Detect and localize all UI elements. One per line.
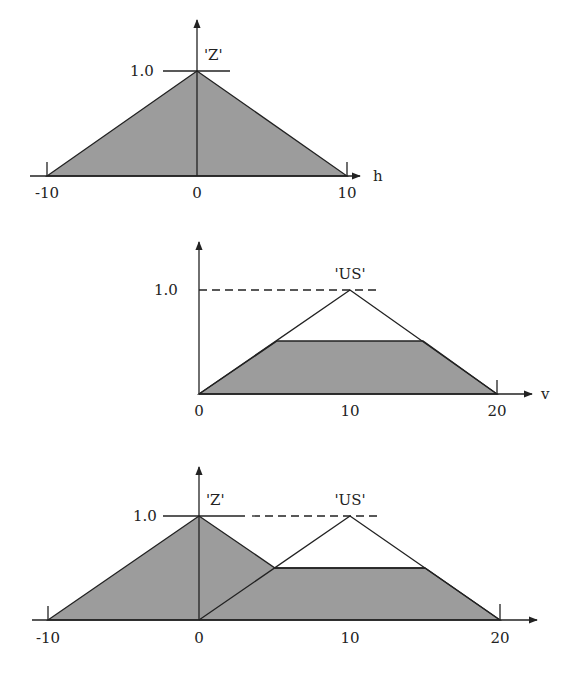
x-tick-label: -10 <box>35 184 59 202</box>
x-tick-label: 0 <box>194 629 204 647</box>
x-tick-label: 0 <box>192 184 202 202</box>
y-tick-label: 1.0 <box>130 62 154 80</box>
y-tick-label: 1.0 <box>154 281 178 299</box>
diagram-us: 'US' 1.0 v 0 10 20 <box>154 242 550 420</box>
set-label-us: 'US' <box>334 265 365 283</box>
set-label-z: 'Z' <box>204 46 223 64</box>
set-label-z: 'Z' <box>206 491 225 509</box>
x-tick-label: -10 <box>36 629 60 647</box>
x-tick-label: 10 <box>340 629 359 647</box>
set-label-us: 'US' <box>334 491 365 509</box>
diagram-combined: 'Z' 'US' 1.0 -10 0 10 20 <box>32 467 537 647</box>
us-clipped-area <box>199 341 497 394</box>
diagram-z: 'Z' 1.0 h -10 0 10 <box>30 20 383 202</box>
x-tick-label: 10 <box>340 402 359 420</box>
x-tick-label: 0 <box>194 402 204 420</box>
x-tick-label: 20 <box>490 629 509 647</box>
fuzzy-diagram-figure: 'Z' 1.0 h -10 0 10 'US' 1.0 v 0 10 20 'Z… <box>0 0 581 674</box>
x-tick-label: 20 <box>487 402 506 420</box>
y-tick-label: 1.0 <box>133 507 157 525</box>
x-axis-label: v <box>540 385 550 403</box>
x-axis-label: h <box>373 167 383 185</box>
x-tick-label: 10 <box>337 184 356 202</box>
